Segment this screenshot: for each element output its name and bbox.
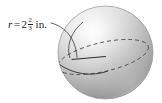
sphere-body	[58, 6, 153, 99]
sphere-top-sheen	[58, 6, 153, 99]
sphere-figure: r = 2 2 3 in.	[0, 0, 162, 103]
sphere-diagram-svg	[0, 0, 162, 103]
